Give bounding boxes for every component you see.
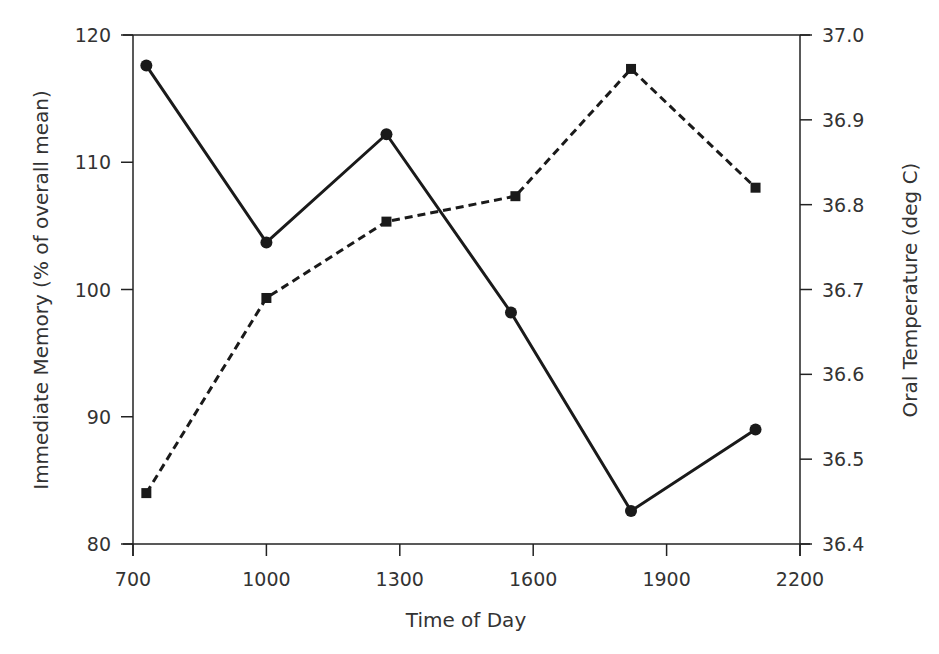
- circle-marker: [750, 423, 762, 435]
- circle-marker: [140, 60, 152, 72]
- square-marker: [261, 293, 271, 303]
- series-line: [146, 66, 755, 511]
- circle-marker: [380, 128, 392, 140]
- y-tick-label-right: 36.8: [822, 194, 864, 216]
- circle-marker: [505, 306, 517, 318]
- series-oral-temperature: [141, 64, 760, 498]
- square-marker: [381, 217, 391, 227]
- y-tick-label-right: 37.0: [822, 24, 864, 46]
- x-axis-label: Time of Day: [405, 608, 527, 632]
- square-marker: [626, 64, 636, 74]
- y-tick-label-left: 80: [87, 533, 111, 555]
- x-tick-label: 1000: [242, 568, 290, 590]
- x-tick-label: 700: [115, 568, 151, 590]
- y-tick-label-left: 100: [75, 279, 111, 301]
- square-marker: [510, 191, 520, 201]
- x-tick-label: 1300: [376, 568, 424, 590]
- y-tick-label-right: 36.9: [822, 109, 864, 131]
- y-axis-label-right: Oral Temperature (deg C): [898, 163, 922, 418]
- y-tick-label-right: 36.7: [822, 279, 864, 301]
- y-tick-label-right: 36.4: [822, 533, 864, 555]
- series-immediate-memory: [140, 60, 761, 517]
- y-tick-label-left: 90: [87, 406, 111, 428]
- circle-marker: [625, 505, 637, 517]
- x-tick-label: 2200: [776, 568, 824, 590]
- square-marker: [751, 183, 761, 193]
- x-tick-label: 1600: [509, 568, 557, 590]
- series-layer: [140, 60, 761, 517]
- axes: 70010001300160019002200809010011012036.4…: [75, 24, 865, 590]
- circle-marker: [260, 236, 272, 248]
- x-tick-label: 1900: [642, 568, 690, 590]
- y-tick-label-left: 120: [75, 24, 111, 46]
- dual-axis-line-chart: 70010001300160019002200809010011012036.4…: [0, 0, 939, 654]
- y-tick-label-right: 36.6: [822, 363, 864, 385]
- y-tick-label-right: 36.5: [822, 448, 864, 470]
- y-tick-label-left: 110: [75, 151, 111, 173]
- series-line: [146, 69, 755, 493]
- square-marker: [141, 488, 151, 498]
- y-axis-label-left: Immediate Memory (% of overall mean): [29, 90, 53, 490]
